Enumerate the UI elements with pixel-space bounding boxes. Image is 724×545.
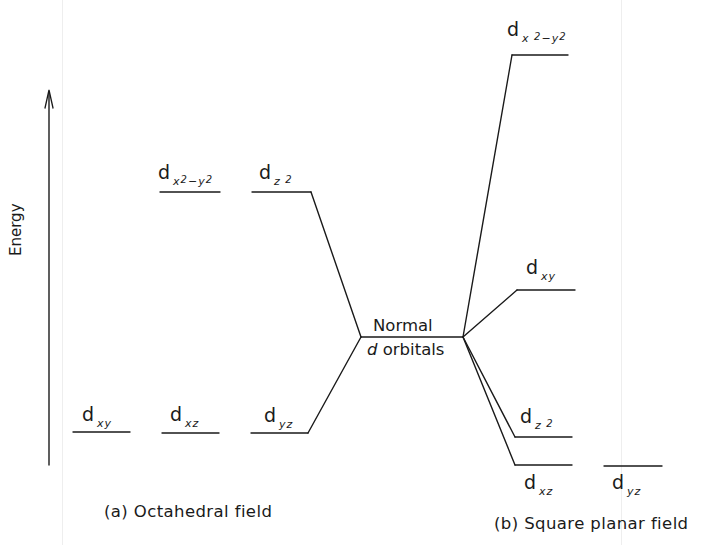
oct-dyz-label: dyz: [264, 406, 293, 425]
sp-dx2y2-label: dx 2−y2: [507, 20, 567, 39]
energy-axis-label: Energy: [7, 203, 25, 256]
square-planar-caption: (b) Square planar field: [494, 514, 689, 533]
oct-dxy-label: dxy: [82, 405, 112, 424]
orbitals-text: orbitals: [377, 340, 444, 359]
d-italic: d: [367, 340, 377, 359]
sp-dx2y2-connector: [463, 55, 512, 337]
oct-upper-connector: [311, 192, 361, 337]
sp-dxz-label: dxz: [524, 473, 553, 492]
energy-level-diagram: [0, 0, 724, 545]
normal-label-line1: Normal: [372, 316, 433, 337]
sp-dxz-connector: [463, 337, 515, 465]
normal-d-orbitals-label: Normal: [372, 316, 433, 337]
octahedral-caption: (a) Octahedral field: [104, 502, 272, 521]
normal-d-orbitals-label-line2: d orbitals: [367, 340, 444, 361]
oct-dz2-label: dz 2: [259, 163, 293, 182]
sp-dxy-connector: [463, 290, 517, 337]
sp-dz2-connector: [463, 337, 515, 437]
oct-dx2y2-label: dx2−y2: [158, 163, 213, 182]
oct-lower-connector: [308, 337, 361, 433]
sp-dxy-label: dxy: [526, 258, 556, 277]
sp-dyz-label: dyz: [612, 473, 641, 492]
sp-dz2-label: dz 2: [520, 407, 554, 426]
oct-dxz-label: dxz: [170, 405, 199, 424]
